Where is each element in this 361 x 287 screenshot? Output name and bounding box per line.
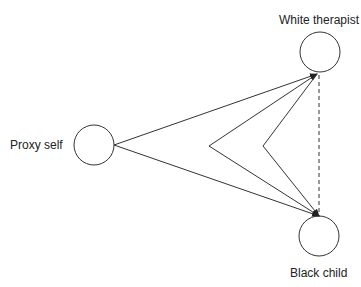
edge-chevron-right: [263, 74, 319, 216]
proxy-self-node: [74, 125, 114, 165]
black-child-node: [299, 216, 339, 256]
edge-proxy-to-therapist: [114, 74, 317, 145]
black-child-label: Black child: [290, 266, 347, 280]
proxy-self-label: Proxy self: [10, 138, 63, 152]
white-therapist-label: White therapist: [279, 13, 359, 27]
edge-proxy-to-child: [114, 145, 319, 216]
white-therapist-node: [300, 32, 340, 72]
